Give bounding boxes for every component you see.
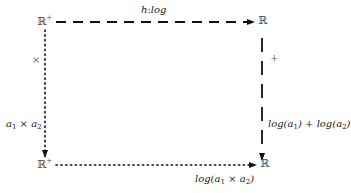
label-h-log: h:log — [141, 5, 166, 15]
node-sup: + — [46, 14, 52, 22]
node-top-left: ℝ+ — [37, 15, 52, 27]
label-a1-times-a2: a1 × a2 — [6, 119, 42, 131]
operator: + — [302, 118, 317, 129]
node-base: ℝ — [37, 15, 46, 28]
node-sup: + — [46, 157, 52, 165]
plus-symbol: + — [270, 52, 278, 63]
node-base: ℝ — [258, 14, 267, 27]
func-log: log( — [195, 173, 215, 184]
node-bottom-left: ℝ+ — [37, 158, 52, 170]
label-log: log — [151, 4, 167, 15]
operator: × — [225, 173, 240, 184]
paren: ) — [250, 173, 254, 184]
func-log: log( — [268, 118, 288, 129]
label-times: × — [32, 55, 40, 65]
node-base: ℝ — [37, 158, 46, 171]
subscript: 2 — [37, 123, 41, 131]
func-log: log( — [317, 118, 337, 129]
label-log-sum: log(a1) + log(a2) — [268, 119, 351, 131]
node-bottom-right: ℝ — [260, 158, 269, 169]
node-base: ℝ — [260, 157, 269, 170]
label-plus: + — [270, 53, 278, 63]
times-symbol: × — [32, 54, 40, 65]
operator: × — [16, 118, 31, 129]
label-log-product: log(a1 × a2) — [195, 174, 254, 186]
node-top-right: ℝ — [258, 15, 267, 26]
paren: ) — [347, 118, 351, 129]
